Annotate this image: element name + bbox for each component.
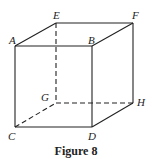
vertex-label-G: G	[41, 91, 49, 103]
vertex-label-D: D	[87, 130, 96, 142]
vertex-label-B: B	[88, 34, 95, 46]
vertex-label-E: E	[52, 9, 60, 21]
edge-CG-hidden	[15, 103, 56, 127]
edge-AE	[15, 23, 56, 46]
edge-BF	[92, 23, 133, 46]
vertex-label-F: F	[131, 9, 139, 21]
vertex-label-H: H	[136, 96, 146, 108]
figure-caption: Figure 8	[55, 144, 98, 158]
vertex-label-C: C	[8, 130, 16, 142]
edge-DH	[92, 103, 133, 127]
vertex-label-A: A	[8, 34, 16, 46]
cube-diagram: A B E F C D G H Figure 8	[0, 0, 152, 159]
